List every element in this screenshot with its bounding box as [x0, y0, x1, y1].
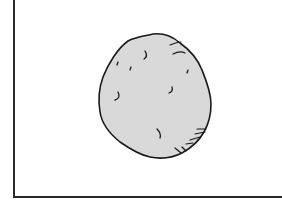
potato-icon — [99, 34, 211, 158]
potato-illustration — [0, 0, 282, 202]
